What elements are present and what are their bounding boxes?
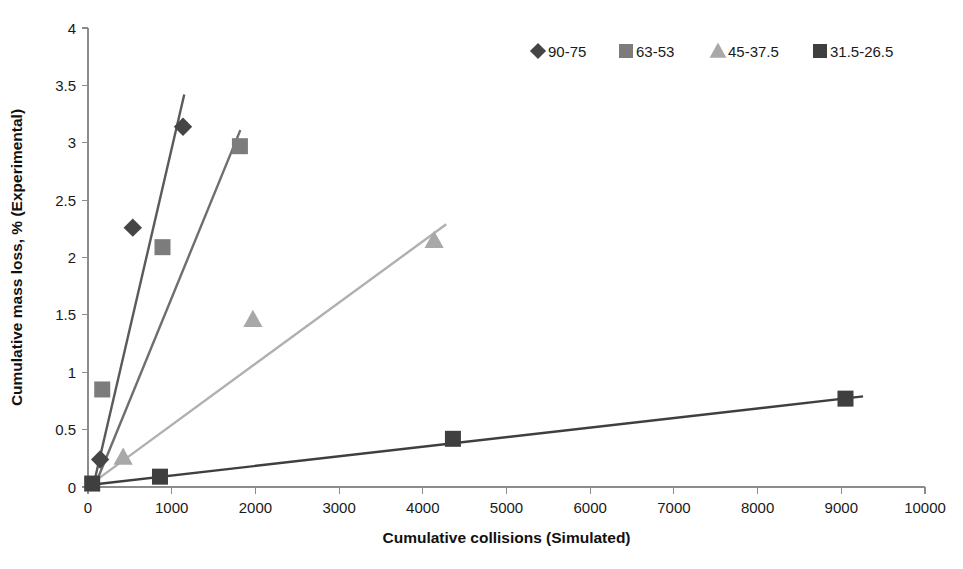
trendlines	[91, 95, 863, 487]
y-tick-label: 3	[68, 134, 76, 151]
legend-marker-31.5-26.5	[813, 44, 827, 58]
y-tick-label: 2.5	[55, 192, 76, 209]
data-point-63-53	[154, 239, 170, 255]
data-point-90-75	[124, 218, 142, 236]
y-tick-label: 0	[68, 479, 76, 496]
y-tick-label: 1	[68, 364, 76, 381]
legend-label-45-37.5: 45-37.5	[728, 43, 779, 60]
data-point-90-75	[174, 117, 192, 135]
x-tick-label: 2000	[239, 499, 272, 516]
data-point-31.5-26.5	[837, 391, 853, 407]
chart-legend: 90-7563-5345-37.531.5-26.5	[530, 43, 893, 60]
x-tick-label: 9000	[825, 499, 858, 516]
chart-canvas: 00.511.522.533.54 0100020003000400050006…	[0, 0, 963, 569]
trendline-90-75	[93, 95, 184, 487]
x-tick-label: 4000	[406, 499, 439, 516]
x-tick-label: 0	[84, 499, 92, 516]
data-markers	[84, 117, 853, 491]
legend-marker-90-75	[530, 43, 546, 59]
y-axis-ticks: 00.511.522.533.54	[55, 20, 88, 496]
x-tick-label: 8000	[741, 499, 774, 516]
chart-figure: 00.511.522.533.54 0100020003000400050006…	[0, 0, 963, 569]
legend-label-63-53: 63-53	[636, 43, 674, 60]
x-tick-label: 5000	[490, 499, 523, 516]
x-axis-ticks: 0100020003000400050006000700080009000100…	[84, 487, 946, 516]
x-tick-label: 10000	[904, 499, 946, 516]
x-axis-title: Cumulative collisions (Simulated)	[382, 529, 630, 546]
y-tick-label: 1.5	[55, 306, 76, 323]
trendline-63-53	[94, 130, 240, 487]
data-point-31.5-26.5	[84, 476, 100, 492]
y-tick-label: 3.5	[55, 77, 76, 94]
data-point-31.5-26.5	[445, 431, 461, 447]
x-tick-label: 7000	[657, 499, 690, 516]
y-axis-title: Cumulative mass loss, % (Experimental)	[8, 109, 25, 406]
y-tick-label: 0.5	[55, 421, 76, 438]
x-tick-label: 1000	[155, 499, 188, 516]
y-tick-label: 2	[68, 249, 76, 266]
x-tick-label: 6000	[574, 499, 607, 516]
data-point-90-75	[91, 450, 109, 468]
data-point-31.5-26.5	[152, 469, 168, 485]
data-point-63-53	[232, 138, 248, 154]
trendline-31.5-26.5	[91, 396, 863, 484]
data-point-63-53	[94, 381, 110, 397]
legend-marker-45-37.5	[710, 43, 727, 58]
legend-label-90-75: 90-75	[548, 43, 586, 60]
data-point-45-37.5	[243, 310, 262, 327]
x-tick-label: 3000	[322, 499, 355, 516]
legend-label-31.5-26.5: 31.5-26.5	[830, 43, 893, 60]
y-tick-label: 4	[68, 20, 76, 37]
legend-marker-63-53	[619, 44, 633, 58]
